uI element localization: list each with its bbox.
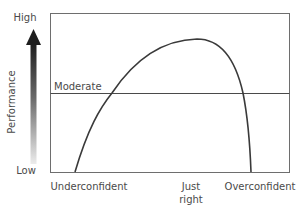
- y-high-label: High: [14, 12, 37, 23]
- performance-arrow-icon: [26, 29, 41, 164]
- moderate-label: Moderate: [54, 81, 102, 92]
- performance-curve: [75, 39, 251, 172]
- x-label-underconfident: Underconfident: [50, 181, 127, 192]
- y-axis-title: Performance: [6, 70, 17, 133]
- x-label-overconfident: Overconfident: [225, 181, 296, 192]
- x-label-just: Just: [181, 181, 200, 192]
- x-label-right: right: [179, 194, 203, 205]
- y-low-label: Low: [16, 165, 36, 176]
- performance-confidence-diagram: High Low Performance Moderate Underconfi…: [0, 0, 300, 213]
